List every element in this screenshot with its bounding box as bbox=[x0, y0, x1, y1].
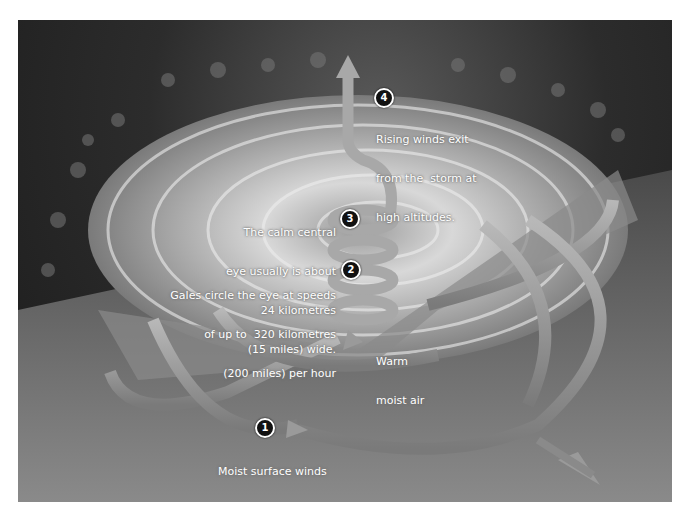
callout-2-line: (200 miles) per hour bbox=[168, 367, 336, 380]
rising-arrowhead bbox=[336, 55, 360, 78]
warm-moist-air-label: Warm moist air bbox=[376, 329, 424, 433]
callout-badge-2: 2 bbox=[341, 260, 361, 280]
annotation-line: moist air bbox=[376, 394, 424, 407]
callout-badge-1: 1 bbox=[255, 418, 275, 438]
callout-1-text: Moist surface winds spiral in toward the… bbox=[218, 439, 328, 502]
callout-4-line: Rising winds exit bbox=[376, 133, 477, 146]
callout-2-text: Gales circle the eye at speeds of up to … bbox=[168, 263, 336, 406]
callout-1-line: Moist surface winds bbox=[218, 465, 328, 478]
callout-2-line: of up to 320 kilometres bbox=[168, 328, 336, 341]
callout-4-line: high altitudes. bbox=[376, 211, 477, 224]
hurricane-diagram: 4 Rising winds exit from the storm at hi… bbox=[18, 20, 672, 502]
annotation-line: Warm bbox=[376, 355, 424, 368]
callout-2-line: Gales circle the eye at speeds bbox=[168, 289, 336, 302]
callout-badge-4: 4 bbox=[374, 88, 394, 108]
callout-badge-3: 3 bbox=[340, 209, 360, 229]
callout-4-line: from the storm at bbox=[376, 172, 477, 185]
callout-3-line: The calm central bbox=[210, 226, 336, 239]
callout-4-text: Rising winds exit from the storm at high… bbox=[376, 107, 477, 250]
